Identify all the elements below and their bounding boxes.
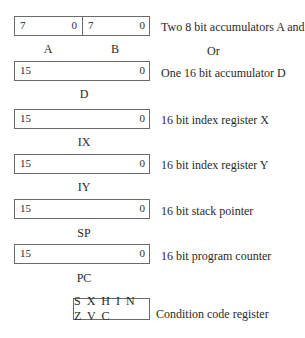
- a-label: A: [18, 42, 78, 57]
- iy-label: IY: [54, 180, 114, 195]
- d-low-bit: 0: [140, 64, 146, 76]
- ccr-bits: S X H I N Z V C: [74, 294, 149, 324]
- ccr-description: Condition code register: [156, 307, 269, 322]
- b-label: B: [85, 42, 145, 57]
- program-counter-box: 15 0: [14, 244, 150, 264]
- sp-low-bit: 0: [140, 202, 146, 214]
- iy-low-bit: 0: [140, 157, 146, 169]
- index-y-box: 15 0: [14, 154, 150, 174]
- pc-low-bit: 0: [140, 247, 146, 259]
- ix-low-bit: 0: [140, 112, 146, 124]
- iy-high-bit: 15: [20, 157, 31, 169]
- iy-description: 16 bit index register Y: [161, 158, 269, 173]
- sp-description: 16 bit stack pointer: [161, 204, 253, 219]
- d-label: D: [54, 87, 114, 102]
- ix-description: 16 bit index register X: [161, 113, 269, 128]
- a-high-bit: 7: [20, 19, 26, 31]
- or-label: Or: [207, 44, 220, 59]
- condition-code-box: S X H I N Z V C: [73, 298, 150, 320]
- accumulator-d-box: 15 0: [14, 61, 150, 81]
- accumulator-ab-box: 7 0 7 0: [14, 16, 150, 36]
- sp-label: SP: [54, 226, 114, 241]
- ab-description: Two 8 bit accumulators A and B: [161, 20, 305, 35]
- d-description: One 16 bit accumulator D: [161, 66, 286, 81]
- pc-description: 16 bit program counter: [161, 249, 271, 264]
- a-low-bit: 0: [72, 19, 78, 31]
- b-low-bit: 0: [140, 19, 146, 31]
- pc-label: PC: [54, 271, 114, 286]
- d-high-bit: 15: [20, 64, 31, 76]
- sp-high-bit: 15: [20, 202, 31, 214]
- index-x-box: 15 0: [14, 109, 150, 129]
- ab-divider: [82, 17, 83, 35]
- ix-high-bit: 15: [20, 112, 31, 124]
- pc-high-bit: 15: [20, 247, 31, 259]
- stack-pointer-box: 15 0: [14, 199, 150, 219]
- b-high-bit: 7: [88, 19, 94, 31]
- ix-label: IX: [54, 135, 114, 150]
